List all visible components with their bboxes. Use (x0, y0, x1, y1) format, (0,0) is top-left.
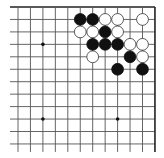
black-stone[interactable] (87, 38, 99, 50)
black-stone[interactable] (99, 38, 111, 50)
black-stone[interactable] (112, 63, 124, 75)
white-stone[interactable] (124, 38, 136, 50)
white-stone[interactable] (87, 51, 99, 63)
white-stone[interactable] (87, 26, 99, 38)
white-stone[interactable] (112, 14, 124, 26)
white-stone[interactable] (137, 14, 149, 26)
black-stone[interactable] (137, 63, 149, 75)
black-stone[interactable] (87, 14, 99, 26)
black-stone[interactable] (112, 38, 124, 50)
black-stone[interactable] (124, 51, 136, 63)
white-stone[interactable] (74, 26, 86, 38)
go-board[interactable] (0, 0, 164, 158)
white-stone[interactable] (112, 26, 124, 38)
star-point (116, 117, 120, 121)
star-point (41, 43, 45, 47)
white-stone[interactable] (137, 38, 149, 50)
black-stone[interactable] (99, 26, 111, 38)
black-stone[interactable] (74, 14, 86, 26)
white-stone[interactable] (99, 14, 111, 26)
star-point (41, 117, 45, 121)
white-stone[interactable] (137, 51, 149, 63)
